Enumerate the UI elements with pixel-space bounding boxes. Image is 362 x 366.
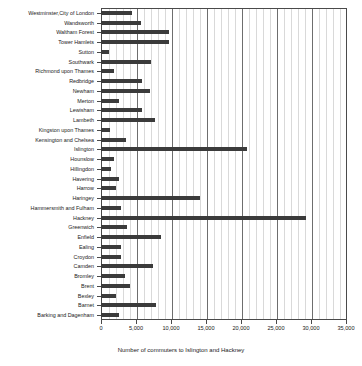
x-axis-tick-label: 0 bbox=[99, 325, 102, 332]
y-axis-label: Sutton bbox=[78, 49, 94, 55]
bar-row bbox=[101, 79, 347, 83]
y-axis-label: Harrow bbox=[77, 185, 94, 191]
bar-row bbox=[101, 147, 347, 151]
bar-row bbox=[101, 40, 347, 44]
y-axis-tick bbox=[97, 179, 101, 180]
y-axis-tick bbox=[97, 42, 101, 43]
bar bbox=[101, 89, 150, 93]
y-axis-tick bbox=[97, 130, 101, 131]
y-axis-tick bbox=[97, 13, 101, 14]
bar-row bbox=[101, 128, 347, 132]
x-axis-tick bbox=[276, 320, 277, 324]
bars-layer bbox=[101, 8, 347, 320]
y-axis-label: Merton bbox=[77, 98, 94, 104]
y-axis-label: Hounslow bbox=[70, 156, 94, 162]
bar-row bbox=[101, 99, 347, 103]
y-axis-tick bbox=[97, 257, 101, 258]
y-axis-tick bbox=[97, 237, 101, 238]
bar bbox=[101, 274, 125, 278]
bar bbox=[101, 50, 109, 54]
x-axis-tick bbox=[311, 320, 312, 324]
bar-row bbox=[101, 255, 347, 259]
bar bbox=[101, 186, 116, 190]
bar-row bbox=[101, 196, 347, 200]
x-axis-title: Number of commuters to Islington and Hac… bbox=[0, 347, 362, 353]
y-axis-tick bbox=[97, 169, 101, 170]
bar-row bbox=[101, 60, 347, 64]
x-axis-tick bbox=[346, 320, 347, 324]
y-axis-label: Enfield bbox=[78, 234, 94, 240]
y-axis-label: Wandsworth bbox=[64, 20, 94, 26]
y-axis-label: Haringey bbox=[72, 195, 94, 201]
bar bbox=[101, 177, 119, 181]
y-axis-tick bbox=[97, 110, 101, 111]
y-axis-label: Kensington and Chelsea bbox=[35, 137, 94, 143]
bar-row bbox=[101, 21, 347, 25]
bar-row bbox=[101, 313, 347, 317]
bar bbox=[101, 196, 200, 200]
bar bbox=[101, 303, 156, 307]
y-axis-label: Camden bbox=[74, 263, 94, 269]
x-axis-tick bbox=[241, 320, 242, 324]
x-axis-tick bbox=[101, 320, 102, 324]
bar bbox=[101, 216, 306, 220]
y-axis-label: Greenwich bbox=[68, 224, 94, 230]
y-axis-label: Redbridge bbox=[69, 78, 94, 84]
y-axis-label: Hammersmith and Fulham bbox=[30, 205, 94, 211]
bar-row bbox=[101, 108, 347, 112]
x-axis-tick bbox=[136, 320, 137, 324]
bar bbox=[101, 60, 151, 64]
x-axis-tick-label: 5,000 bbox=[129, 325, 143, 332]
bar-row bbox=[101, 89, 347, 93]
y-axis-label: Hackney bbox=[73, 215, 94, 221]
y-axis-label: Southwark bbox=[69, 59, 94, 65]
bar bbox=[101, 264, 153, 268]
bar bbox=[101, 235, 161, 239]
bar-row bbox=[101, 245, 347, 249]
x-axis-tick-label: 10,000 bbox=[162, 325, 179, 332]
y-axis-category-labels: Westminster,City of LondonWandsworthWalt… bbox=[0, 8, 98, 320]
y-axis-tick bbox=[97, 296, 101, 297]
bar bbox=[101, 147, 247, 151]
bar bbox=[101, 40, 169, 44]
y-axis-tick bbox=[97, 286, 101, 287]
y-axis-label: Croydon bbox=[74, 254, 94, 260]
bar-row bbox=[101, 186, 347, 190]
bar-row bbox=[101, 69, 347, 73]
bar-row bbox=[101, 138, 347, 142]
y-axis-label: Newham bbox=[73, 88, 94, 94]
y-axis-tick bbox=[97, 140, 101, 141]
x-axis-tick-label: 15,000 bbox=[197, 325, 214, 332]
y-axis-tick bbox=[97, 81, 101, 82]
bar-row bbox=[101, 284, 347, 288]
bar bbox=[101, 128, 110, 132]
bar bbox=[101, 99, 119, 103]
x-axis-ticks bbox=[101, 320, 347, 324]
bar-row bbox=[101, 11, 347, 15]
y-axis-label: Hillingdon bbox=[70, 166, 94, 172]
bar-row bbox=[101, 167, 347, 171]
y-axis-tick bbox=[97, 227, 101, 228]
bar-row bbox=[101, 303, 347, 307]
bar bbox=[101, 157, 114, 161]
bar bbox=[101, 167, 111, 171]
x-axis-tick-label: 25,000 bbox=[267, 325, 284, 332]
y-axis-tick bbox=[97, 305, 101, 306]
y-axis-label: Westminster,City of London bbox=[28, 10, 94, 16]
bar bbox=[101, 225, 127, 229]
x-axis-tick-label: 30,000 bbox=[302, 325, 319, 332]
bar bbox=[101, 108, 142, 112]
x-axis-tick-label: 35,000 bbox=[337, 325, 354, 332]
bar-row bbox=[101, 216, 347, 220]
y-axis-label: Barnet bbox=[78, 302, 94, 308]
y-axis-tick bbox=[97, 32, 101, 33]
bar-row bbox=[101, 50, 347, 54]
y-axis-tick bbox=[97, 52, 101, 53]
bar-row bbox=[101, 177, 347, 181]
y-axis-label: Tower Hamlets bbox=[58, 39, 94, 45]
y-axis-tick bbox=[97, 23, 101, 24]
bar bbox=[101, 79, 142, 83]
bar bbox=[101, 294, 116, 298]
bar bbox=[101, 255, 121, 259]
bar bbox=[101, 313, 119, 317]
